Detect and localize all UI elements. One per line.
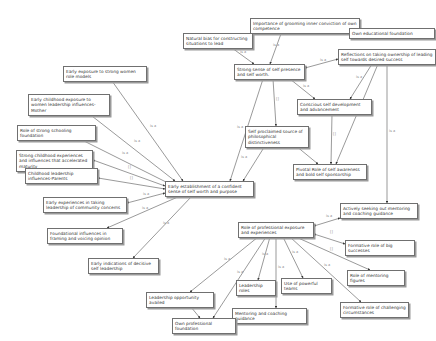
edge-n12-n14[interactable] [93,160,165,186]
edge-n14-n6[interactable] [112,81,183,181]
edge-label: [] [128,165,131,169]
concept-node[interactable]: Early experiences in taking leadership o… [43,197,127,213]
edge-label: is a [356,75,362,79]
edge-n19-n22[interactable] [258,237,270,280]
edge-label: [] [276,97,279,101]
concept-node[interactable]: Reflections on taking ownership of leadi… [338,49,436,65]
edge-label: is a [278,265,284,269]
concept-node[interactable]: Use of powerful teams [281,278,332,294]
edge-label: is a [262,252,268,256]
concept-node[interactable]: Own educational foundation [349,28,435,39]
edge-label: is a [303,84,309,88]
edge-label: is a [163,221,169,225]
concept-node[interactable]: Role of professional exposure and experi… [238,222,314,238]
edge-label: is a [241,155,247,159]
edge-n4-n1[interactable] [270,31,282,64]
edge-label: is a [389,129,395,133]
edge-n27-n19[interactable] [213,237,266,318]
edge-label: is a [320,58,326,62]
edge-label: is a [324,263,330,267]
concept-node[interactable]: Role of mentoring figures [347,270,405,286]
edge-label: is a [240,50,246,54]
concept-node[interactable]: Self proclaimed source of philosophical … [245,126,309,148]
concept-node[interactable]: Childhood leadership influences-Parents [25,168,98,184]
concept-node[interactable]: Importance of grooming inner conviction … [250,18,360,34]
edge-n5-n8[interactable] [350,64,372,99]
concept-node[interactable]: Early establishment of a confident sense… [165,181,254,197]
concept-node[interactable]: Early indications of decisive self leade… [88,258,159,274]
edge-label: is a [143,192,149,196]
concept-node[interactable]: Leadership roles [236,280,276,296]
concept-node[interactable]: Own professional foundation [172,318,236,334]
concept-node[interactable]: Actively seeking out mentoring and coach… [340,203,418,219]
edge-label: [] [330,230,333,234]
edge-label: [] [333,132,336,136]
concept-node[interactable]: Early exposure to strong women role mode… [63,66,147,82]
concept-node[interactable]: Formative role of challenging circumstan… [340,302,409,318]
edge-n20-n19[interactable] [314,234,345,244]
concept-node[interactable]: Natural bias for constructing situations… [183,33,253,49]
concept-node[interactable]: Leadership opportunity availed [146,292,214,308]
edge-label: is a [142,206,148,210]
edge-label: [] [330,247,333,251]
edge-label: is a [237,270,243,274]
edge-label: is a [122,151,128,155]
concept-node[interactable]: Role of strong schooling foundation [17,125,96,141]
edge-label: is a [134,139,140,143]
edge-label: is a [237,125,243,129]
edge-n8-n11[interactable] [331,114,332,164]
edge-label: is a [326,214,332,218]
concept-node[interactable]: Conscious self development and advanceme… [297,99,372,115]
edge-n4-n8[interactable] [290,79,315,99]
concept-node[interactable]: Foundational influences in framing and v… [47,228,123,244]
edge-n19-n23[interactable] [283,237,303,278]
edge-n19-n18[interactable] [314,218,340,226]
network-diagram-canvas: is a[]is ais ais ais ais a[][][]is ais a… [0,0,436,341]
concept-node[interactable]: Strong sense of self presence and self w… [234,64,305,80]
edge-label: is a [150,124,156,128]
edge-label: is a [224,257,230,261]
concept-node[interactable]: Mentoring and coaching guidance [232,308,307,324]
edge-n9-n4[interactable] [273,79,276,126]
edge-label: is a [292,250,298,254]
concept-node[interactable]: Early childhood exposure to women leader… [28,94,110,116]
concept-node[interactable]: Formative role of big successes [345,240,415,256]
concept-node[interactable]: Pivotal Role of self awareness and bold … [293,164,367,180]
edge-label: [] [130,176,133,180]
edge-label: is a [273,43,279,47]
